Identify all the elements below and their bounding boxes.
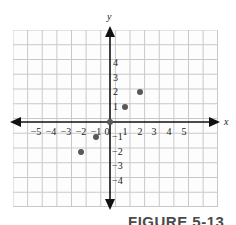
x-axis-left-arrowhead bbox=[10, 117, 21, 127]
x-tick-label: −2 bbox=[76, 127, 87, 137]
x-tick-label: 3 bbox=[152, 127, 157, 137]
x-axis-right-arrowhead bbox=[209, 117, 220, 127]
x-tick-label: −5 bbox=[31, 127, 42, 137]
figure-caption: FIGURE 5-13 bbox=[128, 213, 224, 225]
y-tick-label: −1 bbox=[112, 132, 123, 142]
y-axis-label: y bbox=[107, 12, 111, 22]
y-axis-bottom-arrowhead bbox=[105, 199, 115, 210]
x-tick-label: 2 bbox=[138, 127, 143, 137]
x-axis-label: x bbox=[224, 117, 228, 127]
data-point bbox=[122, 104, 128, 110]
data-point bbox=[78, 149, 84, 155]
axes-layer bbox=[0, 0, 236, 225]
x-tick-label: 1 bbox=[123, 127, 128, 137]
y-tick-label: 1 bbox=[113, 102, 118, 112]
y-tick-label: 2 bbox=[113, 87, 118, 97]
x-tick-label: 5 bbox=[182, 127, 187, 137]
coordinate-plane-figure: y x −5 −4 −3 −2 −1 0 1 2 3 4 5 4 3 2 1 −… bbox=[0, 0, 236, 225]
y-tick-label: 3 bbox=[113, 73, 118, 83]
y-tick-label: −4 bbox=[112, 176, 123, 186]
x-tick-label: −3 bbox=[61, 127, 72, 137]
data-point bbox=[137, 89, 143, 95]
x-tick-label: 4 bbox=[167, 127, 172, 137]
y-tick-label: −3 bbox=[112, 161, 123, 171]
x-tick-label-origin: 0 bbox=[105, 127, 110, 137]
data-point bbox=[93, 134, 99, 140]
data-point bbox=[107, 119, 113, 125]
y-tick-label: 4 bbox=[113, 58, 118, 68]
y-axis-top-arrowhead bbox=[105, 26, 115, 37]
x-tick-label: −4 bbox=[46, 127, 57, 137]
y-tick-label: −2 bbox=[112, 147, 123, 157]
